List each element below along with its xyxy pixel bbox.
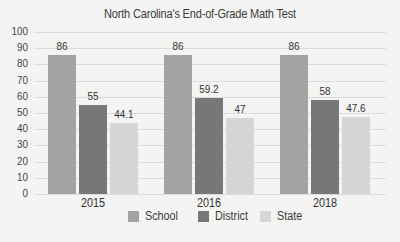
value-label: 86 bbox=[44, 40, 80, 52]
legend-swatch bbox=[260, 211, 271, 222]
bar-district-2018 bbox=[311, 100, 339, 194]
y-tick-label: 70 bbox=[3, 74, 28, 86]
plot-area: 0102030405060708090100865544.120158659.2… bbox=[0, 0, 400, 242]
value-label: 58 bbox=[307, 85, 343, 97]
value-label: 44.1 bbox=[106, 108, 142, 120]
bar-district-2016 bbox=[195, 98, 223, 194]
bar-school-2016 bbox=[164, 55, 192, 194]
y-tick-label: 90 bbox=[3, 41, 28, 53]
y-tick-label: 40 bbox=[3, 122, 28, 134]
value-label: 47.6 bbox=[338, 102, 374, 114]
bar-state-2016 bbox=[226, 118, 254, 194]
bar-district-2015 bbox=[79, 105, 107, 194]
value-label: 59.2 bbox=[191, 83, 227, 95]
bar-state-2015 bbox=[110, 123, 138, 194]
gridline bbox=[34, 64, 386, 65]
gridline bbox=[34, 32, 386, 33]
bar-state-2018 bbox=[342, 117, 370, 194]
legend: SchoolDistrictState bbox=[0, 208, 400, 224]
y-tick-label: 60 bbox=[3, 90, 28, 102]
legend-item-district: District bbox=[198, 208, 252, 224]
y-tick-label: 20 bbox=[3, 155, 28, 167]
y-tick-label: 0 bbox=[3, 187, 28, 199]
legend-swatch bbox=[198, 211, 209, 222]
y-tick-label: 100 bbox=[3, 25, 28, 37]
legend-label: State bbox=[277, 209, 302, 223]
y-tick-label: 10 bbox=[3, 171, 28, 183]
gridline bbox=[34, 194, 386, 195]
legend-item-state: State bbox=[260, 208, 305, 224]
value-label: 86 bbox=[160, 40, 196, 52]
y-tick-label: 30 bbox=[3, 138, 28, 150]
gridline bbox=[34, 48, 386, 49]
y-tick-label: 80 bbox=[3, 57, 28, 69]
bar-school-2018 bbox=[280, 55, 308, 194]
value-label: 86 bbox=[276, 40, 312, 52]
bar-school-2015 bbox=[48, 55, 76, 194]
value-label: 55 bbox=[75, 90, 111, 102]
legend-swatch bbox=[128, 211, 139, 222]
y-tick-label: 50 bbox=[3, 106, 28, 118]
legend-label: District bbox=[215, 209, 248, 223]
legend-item-school: School bbox=[128, 208, 182, 224]
value-label: 47 bbox=[222, 103, 258, 115]
gridline bbox=[34, 81, 386, 82]
legend-label: School bbox=[145, 209, 178, 223]
